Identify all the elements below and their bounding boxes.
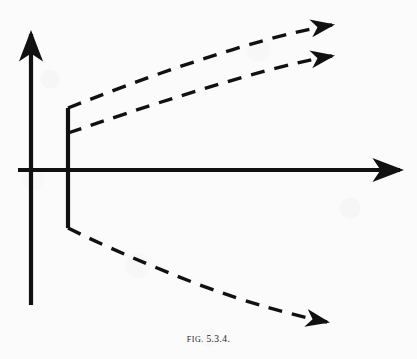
upper-trajectory-curve xyxy=(68,25,332,108)
figure-caption-prefix: FIG. xyxy=(187,335,204,344)
figure-diagram xyxy=(0,0,417,359)
lower-trajectory-curve xyxy=(68,228,327,322)
figure-caption: FIG. 5.3.4. xyxy=(0,334,417,344)
figure-caption-number: 5.3.4. xyxy=(206,334,230,344)
figure-page: FIG. 5.3.4. xyxy=(0,0,417,359)
middle-trajectory-curve xyxy=(68,56,332,133)
